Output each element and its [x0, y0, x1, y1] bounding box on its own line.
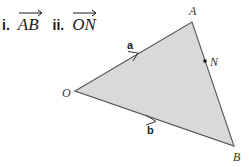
vector-name: AB: [18, 15, 39, 34]
vector-label-a: a: [127, 40, 133, 51]
vector-expression: AB: [18, 8, 39, 34]
question-number: i.: [2, 16, 10, 34]
point-label-n: N: [210, 56, 218, 68]
vector-label-b: b: [147, 125, 154, 136]
question-number: ii.: [53, 16, 65, 34]
point-label-o: O: [62, 87, 71, 99]
point-label-b: B: [233, 151, 240, 163]
triangle-oab: [75, 22, 234, 146]
question-item-1: i. AB: [2, 8, 39, 34]
vector-arrow-icon: [19, 9, 43, 17]
point-label-a: A: [189, 5, 196, 17]
vector-expression: ON: [72, 8, 96, 34]
question-list: i. AB ii. ON: [2, 4, 110, 34]
question-item-2: ii. ON: [53, 8, 96, 34]
vector-arrow-icon: [73, 9, 97, 17]
point-n-dot: [203, 59, 207, 63]
vector-name: ON: [72, 15, 96, 34]
